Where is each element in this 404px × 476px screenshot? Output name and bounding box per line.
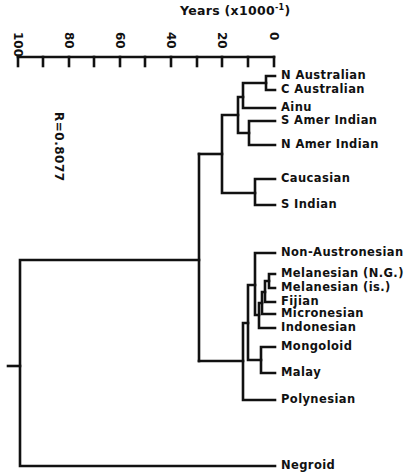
axis-ticks <box>18 57 274 66</box>
leaf-label: Melanesian (is.) <box>281 281 391 293</box>
axis-title: Years (x1000-1) <box>180 3 290 18</box>
leaf-label: S Indian <box>281 198 337 210</box>
leaf-label: N Amer Indian <box>281 138 379 150</box>
branch-caucasian-sindian <box>255 179 275 205</box>
leaf-label: Polynesian <box>281 393 356 405</box>
leaf-label: S Amer Indian <box>281 114 377 126</box>
axis-tick-label: 100 <box>11 32 25 57</box>
leaf-label: Micronesian <box>281 307 364 319</box>
leaf-label: Non-Austronesian <box>281 246 404 258</box>
axis-tick-label: 80 <box>62 32 76 49</box>
leaf-label: Indonesian <box>281 321 356 333</box>
leaf-label: Negroid <box>281 459 335 471</box>
axis-tick-label: 60 <box>113 32 127 49</box>
leaf-label: Caucasian <box>281 172 350 184</box>
leaf-label: Ainu <box>281 101 312 113</box>
leaf-label: Malay <box>281 366 321 378</box>
axis-tick-label: 20 <box>215 32 229 49</box>
correlation-label: R=0.8077 <box>52 112 66 182</box>
branch-mongoloid-malay <box>261 347 275 373</box>
branch-amer-indians <box>249 121 275 145</box>
leaf-label: Melanesian (N.G.) <box>281 267 404 279</box>
branch-root <box>20 260 275 466</box>
leaf-label: Mongoloid <box>281 340 352 352</box>
axis-tick-label: 40 <box>164 32 178 49</box>
branch-australians-ainu <box>243 83 275 108</box>
branch-australians <box>266 76 275 90</box>
axis-tick-label: 0 <box>267 32 281 40</box>
leaf-label: N Australian <box>281 69 366 81</box>
leaf-label: C Australian <box>281 83 365 95</box>
